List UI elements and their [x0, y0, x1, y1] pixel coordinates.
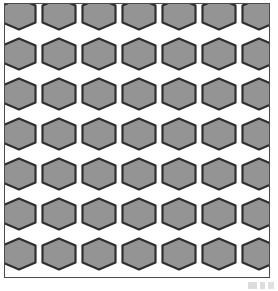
figure-root [0, 0, 278, 291]
hexagon-tiling-fill [4, 3, 270, 278]
hexagon-tiling-svg [4, 3, 270, 278]
hexagon-tiling-field [4, 3, 270, 278]
pattern-border [4, 3, 270, 278]
scan-smudge [248, 282, 274, 289]
